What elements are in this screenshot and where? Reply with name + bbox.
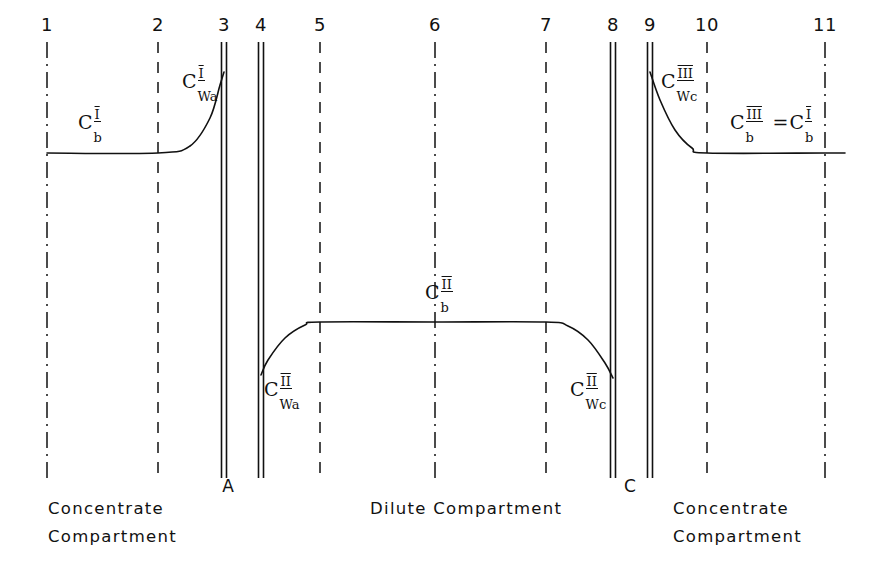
concentration-curve-2 bbox=[261, 322, 613, 378]
concentration-label-cwa1: CIWa bbox=[182, 70, 216, 92]
equality-label-left-subscript: b bbox=[746, 131, 754, 144]
concentration-label-cwa1-superscript: I bbox=[198, 67, 205, 81]
axis-number-9: 9 bbox=[644, 14, 656, 35]
concentration-label-cb2-superscript: II bbox=[441, 278, 453, 292]
concentration-label-cwc2-subscript: Wc bbox=[586, 398, 607, 411]
concentration-label-cwa2: CIIWa bbox=[264, 378, 298, 400]
axis-number-7: 7 bbox=[540, 14, 552, 35]
axis-number-2: 2 bbox=[152, 14, 164, 35]
concentration-curves-group bbox=[47, 72, 845, 378]
membrane-letter-A: A bbox=[222, 476, 234, 496]
concentration-label-cb1-superscript: I bbox=[94, 108, 101, 122]
concentration-label-cb1: CIb bbox=[78, 113, 104, 132]
concentration-label-cwa1-base: C bbox=[182, 70, 197, 92]
concentration-label-cb1-subscript: b bbox=[94, 131, 102, 144]
concentration-label-cwc3-subscript: Wc bbox=[677, 90, 698, 103]
concentration-label-cwc3: CIIIWc bbox=[661, 72, 703, 91]
equality-label-left: CIIIb bbox=[730, 111, 772, 133]
concentration-label-cwc2: CIIWc bbox=[570, 378, 604, 400]
equality-label-right-subscript: b bbox=[805, 131, 813, 144]
concentration-label-cwc2-superscript: II bbox=[586, 375, 598, 389]
axis-number-6: 6 bbox=[429, 14, 441, 35]
concentration-label-cwa2-superscript: II bbox=[280, 375, 292, 389]
axis-number-8: 8 bbox=[607, 14, 619, 35]
equality-label-right-base: C bbox=[789, 111, 804, 133]
compartment-label-3: Concentrate Compartment bbox=[673, 495, 802, 551]
equality-label-right-superscript: I bbox=[805, 108, 812, 122]
equality-label-left-base: C bbox=[730, 111, 745, 133]
concentration-label-cwa1-subscript: Wa bbox=[198, 90, 218, 103]
axis-number-1: 1 bbox=[41, 14, 53, 35]
concentration-label-cwa1: CIWa bbox=[182, 72, 216, 91]
membrane-letter-C: C bbox=[624, 476, 636, 496]
concentration-label-cwc3-superscript: III bbox=[677, 67, 694, 81]
concentration-label-cwc3-base: C bbox=[661, 70, 676, 92]
concentration-label-cwa2-base: C bbox=[264, 378, 279, 400]
concentration-label-cwc3: CIIIWc bbox=[661, 70, 703, 92]
axis-number-4: 4 bbox=[255, 14, 267, 35]
concentration-label-cb1: CIb bbox=[78, 111, 104, 133]
equality-label-right: CIb bbox=[789, 111, 815, 133]
concentration-label-cwc2-base: C bbox=[570, 378, 585, 400]
concentration-label-cwa2: CIIWa bbox=[264, 380, 298, 399]
compartment-label-1: Concentrate Compartment bbox=[48, 495, 177, 551]
equality-label-left-superscript: III bbox=[746, 108, 763, 122]
concentration-label-cwa2-subscript: Wa bbox=[280, 398, 300, 411]
figure-canvas: 1234567891011 AC Concentrate Compartment… bbox=[0, 0, 875, 567]
concentration-label-cb1-base: C bbox=[78, 111, 93, 133]
axis-number-5: 5 bbox=[314, 14, 326, 35]
equality-label: CIIIb=CIb bbox=[730, 113, 815, 132]
axis-number-11: 11 bbox=[813, 14, 837, 35]
concentration-label-cb2: CIIb bbox=[425, 281, 459, 303]
concentration-label-cb2: CIIb bbox=[425, 283, 459, 302]
boundary-lines-group bbox=[47, 42, 825, 478]
concentration-label-cwc2: CIIWc bbox=[570, 380, 604, 399]
concentration-label-cb2-base: C bbox=[425, 281, 440, 303]
compartment-label-2: Dilute Compartment bbox=[370, 495, 562, 523]
concentration-label-cb2-subscript: b bbox=[441, 301, 449, 314]
equality-label-equals: = bbox=[772, 111, 790, 133]
axis-number-3: 3 bbox=[218, 14, 230, 35]
axis-number-10: 10 bbox=[695, 14, 719, 35]
